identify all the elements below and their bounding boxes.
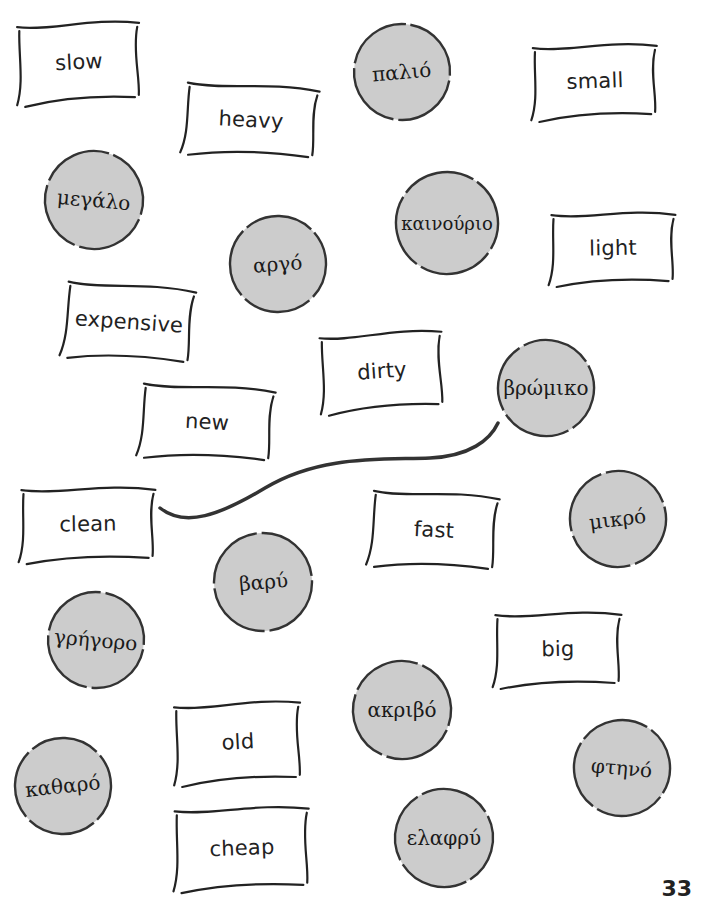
word-card-label: fast: [413, 517, 454, 543]
word-card-slow[interactable]: slow: [13, 17, 145, 108]
word-card-expensive[interactable]: expensive: [59, 277, 198, 366]
word-card-clean[interactable]: clean: [17, 484, 158, 564]
word-card-cheap[interactable]: cheap: [171, 803, 314, 894]
word-card-dirty[interactable]: dirty: [315, 326, 448, 417]
word-card-label: heavy: [218, 106, 284, 133]
word-bubble-label: βαρύ: [238, 568, 289, 596]
word-bubble-megalo[interactable]: μεγάλο: [44, 150, 144, 250]
word-bubble-label: αργό: [253, 250, 304, 277]
word-card-label: dirty: [356, 357, 407, 384]
word-bubble-kainourio[interactable]: καινούριο: [395, 171, 499, 275]
word-card-new[interactable]: new: [136, 379, 278, 464]
word-card-big[interactable]: big: [491, 609, 624, 689]
word-card-heavy[interactable]: heavy: [180, 78, 322, 161]
word-bubble-label: βρώμικο: [503, 376, 588, 400]
word-card-old[interactable]: old: [170, 697, 306, 788]
word-card-light[interactable]: light: [547, 209, 678, 287]
word-card-label: old: [221, 729, 255, 755]
word-bubble-grigoro[interactable]: γρήγορο: [47, 591, 145, 689]
word-bubble-label: καινούριο: [401, 213, 493, 234]
word-bubble-label: ακριβό: [367, 698, 436, 722]
word-card-label: new: [184, 409, 229, 435]
word-bubble-ftino[interactable]: φτηνό: [573, 719, 671, 817]
word-bubble-vromiko[interactable]: βρώμικο: [497, 339, 595, 437]
page-number: 33: [661, 876, 692, 901]
word-card-label: light: [589, 236, 637, 261]
word-card-fast[interactable]: fast: [366, 487, 502, 574]
word-card-label: slow: [55, 49, 104, 75]
word-bubble-mikro[interactable]: μικρό: [569, 470, 667, 568]
word-card-label: clean: [59, 512, 117, 537]
word-card-label: big: [541, 637, 575, 662]
word-bubble-akrivo[interactable]: ακριβό: [352, 660, 452, 760]
word-bubble-argo[interactable]: αργό: [229, 215, 327, 313]
word-bubble-vary[interactable]: βαρύ: [213, 532, 313, 632]
word-bubble-katharo[interactable]: καθαρό: [14, 737, 112, 835]
word-card-label: cheap: [209, 835, 275, 861]
word-bubble-palio[interactable]: παλιό: [353, 23, 451, 121]
word-bubble-label: ελαφρύ: [407, 826, 481, 850]
word-bubble-elafry[interactable]: ελαφρύ: [394, 788, 494, 888]
word-card-label: small: [566, 68, 624, 94]
word-card-small[interactable]: small: [529, 40, 662, 122]
